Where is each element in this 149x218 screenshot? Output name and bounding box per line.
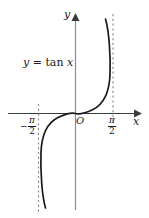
equation-equals: = [29,56,45,69]
fraction-pi-over-two: π 2 [28,116,36,136]
plot-canvas [0,0,149,218]
tangent-function-graph: y x O y = tan x − π 2 π 2 [0,0,149,218]
fraction-pi-over-two: π 2 [108,116,116,136]
x-axis-label: x [133,116,139,127]
minus-sign: − [20,122,28,131]
equation-function-name: tan [45,56,63,69]
fraction-numerator: π [108,116,116,125]
fraction-numerator: π [28,116,36,125]
fraction-denominator: 2 [108,127,116,136]
origin-label: O [76,116,84,126]
y-axis-arrowhead [72,13,80,21]
y-axis-label: y [64,9,70,20]
equation-variable: x [64,56,74,69]
fraction-denominator: 2 [28,127,36,136]
x-tick-label-negative-half-pi: − π 2 [20,116,36,136]
x-tick-label-positive-half-pi: π 2 [108,116,116,136]
equation-label: y = tan x [23,57,73,68]
